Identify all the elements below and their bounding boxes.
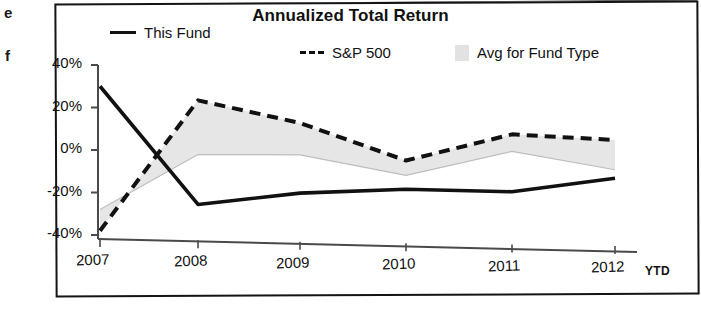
y-tick-label: -40% xyxy=(24,224,82,241)
x-axis-ytd-label: YTD xyxy=(645,264,670,278)
y-tick-label: 20% xyxy=(24,97,82,114)
y-tick-label: 40% xyxy=(24,54,82,71)
x-tick-label: 2011 xyxy=(488,256,521,274)
x-tick-label: 2012 xyxy=(591,257,625,275)
plot-area: 40%20%0%-20%-40% 20072008200920102011201… xyxy=(0,0,701,313)
x-tick-label: 2009 xyxy=(276,253,310,271)
y-tick-label: -20% xyxy=(24,182,82,199)
x-tick-label: 2007 xyxy=(76,250,110,268)
y-tick-label: 0% xyxy=(24,139,82,156)
x-tick-label: 2008 xyxy=(174,252,208,270)
chart-screenshot: e f Annualized Total Return This Fund S&… xyxy=(0,0,701,313)
x-tick-label: 2010 xyxy=(382,255,416,273)
